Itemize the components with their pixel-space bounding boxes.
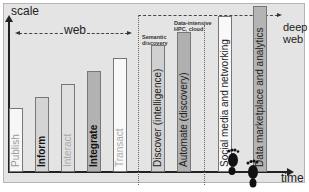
bar-publish: Publish [9, 108, 23, 172]
bar-label: Discover (intelligence) [153, 69, 163, 167]
bar-data-marketplace: Data marketplace and analytics [253, 6, 267, 172]
footprint-icon [245, 157, 261, 189]
bar-label: Integrate [89, 125, 99, 167]
hpc-boundary-line [204, 25, 205, 185]
bar-integrate: Integrate [87, 71, 101, 172]
bar-label: Automate (discovery) [179, 73, 189, 167]
bar-interact: Interact [61, 84, 75, 172]
bar-label: Data marketplace and analytics [255, 27, 265, 167]
bar-label: Transact [115, 128, 125, 167]
y-axis-label: scale [11, 4, 39, 18]
deep-web-label-line1: deep [283, 21, 307, 33]
bar-label: Inform [37, 136, 47, 167]
web-span-line-left [19, 33, 63, 34]
deep-web-arrow-icon [277, 13, 282, 17]
deep-web-boundary-line [138, 15, 139, 185]
bar-inform: Inform [35, 97, 49, 172]
bar-automate: Automate (discovery) [177, 32, 191, 172]
bar-label: Publish [11, 134, 21, 167]
bar-label: Interact [63, 134, 73, 167]
web-arrow-right-icon [127, 31, 132, 35]
x-axis-label: time [281, 171, 304, 185]
bar-transact: Transact [113, 58, 127, 172]
footprint-icon [225, 146, 241, 176]
web-span-line-right [87, 33, 128, 34]
deep-web-label-line2: web [283, 33, 307, 45]
web-label: web [64, 23, 86, 37]
bar-discover: Discover (intelligence) [151, 45, 165, 172]
deep-web-label: deep web [283, 21, 307, 45]
hpc-cloud-label: Data-intensive HPC, cloud [174, 21, 212, 33]
